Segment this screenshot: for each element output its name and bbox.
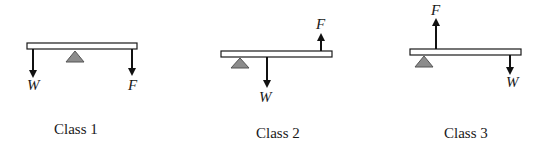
effort-label-class-2: F bbox=[316, 16, 325, 33]
caption-class-3: Class 3 bbox=[444, 125, 488, 142]
caption-class-1: Class 1 bbox=[54, 121, 98, 138]
fulcrum-triangle bbox=[231, 58, 249, 68]
lever-class-2 bbox=[221, 37, 332, 84]
caption-class-2: Class 2 bbox=[256, 125, 300, 142]
effort-label-class-3: F bbox=[431, 2, 440, 19]
lever-class-1 bbox=[27, 43, 137, 74]
fulcrum-triangle bbox=[415, 56, 433, 67]
effort-label-class-1: F bbox=[128, 77, 137, 94]
fulcrum-triangle bbox=[66, 51, 84, 62]
load-label-class-2: W bbox=[259, 89, 272, 106]
load-label-class-3: W bbox=[506, 74, 519, 91]
beam bbox=[221, 51, 332, 57]
beam bbox=[410, 49, 521, 55]
load-label-class-1: W bbox=[27, 77, 40, 94]
beam bbox=[27, 43, 137, 49]
lever-class-3 bbox=[410, 22, 521, 71]
